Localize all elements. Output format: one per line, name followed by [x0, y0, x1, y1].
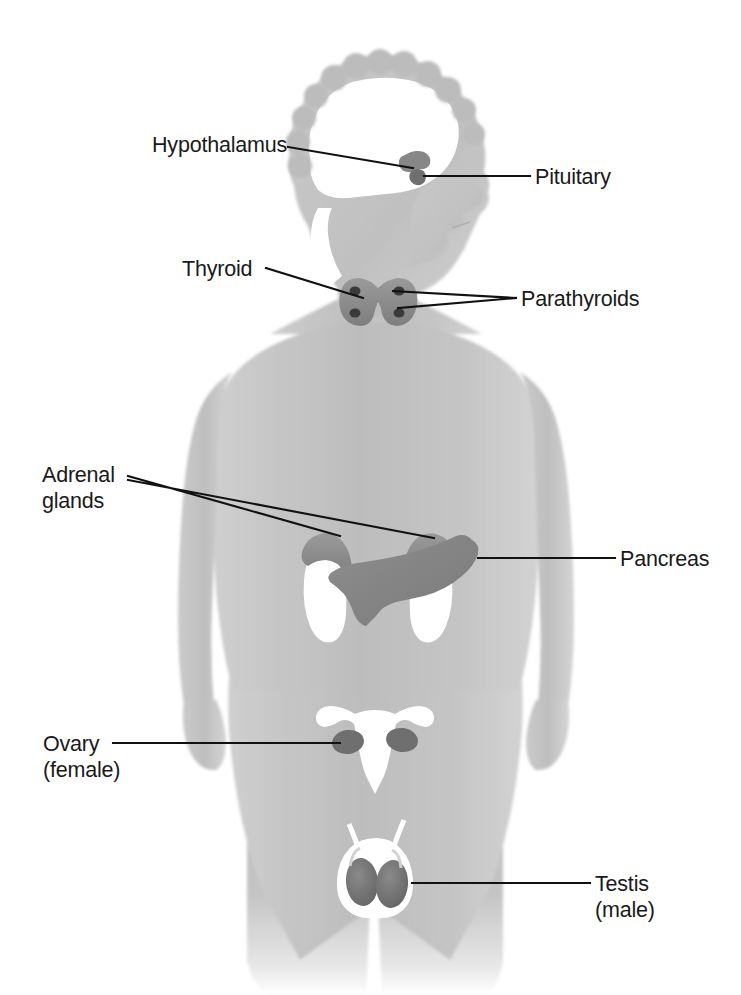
label-pituitary: Pituitary	[535, 165, 611, 189]
label-parathyroids: Parathyroids	[521, 287, 639, 311]
hand-left	[183, 700, 226, 770]
label-ovary-female: Ovary (female)	[43, 732, 120, 782]
label-testis-male: Testis (male)	[595, 872, 655, 922]
label-hypothalamus-line1: Hypothalamus	[152, 133, 287, 157]
label-adrenal-glands: Adrenal glands	[42, 463, 121, 513]
label-testis-line2: (male)	[595, 898, 655, 922]
hand-right	[526, 700, 569, 770]
label-ovary-line1: Ovary	[43, 732, 100, 756]
label-hypothalamus: Hypothalamus	[152, 133, 287, 157]
torso	[214, 316, 539, 690]
label-pancreas: Pancreas	[620, 547, 709, 571]
label-pituitary-line1: Pituitary	[535, 165, 611, 189]
diagram-canvas: Hypothalamus Pituitary Thyroid Parathyro…	[0, 0, 741, 995]
label-pancreas-line1: Pancreas	[620, 547, 709, 571]
label-testis-line1: Testis	[595, 872, 649, 896]
label-adrenal-glands-line1: Adrenal	[42, 463, 115, 487]
label-ovary-line2: (female)	[43, 758, 120, 782]
endocrine-system-diagram: Hypothalamus Pituitary Thyroid Parathyro…	[0, 0, 741, 995]
label-parathyroids-line1: Parathyroids	[521, 287, 639, 311]
label-thyroid: Thyroid	[182, 257, 252, 281]
label-adrenal-glands-line2: glands	[42, 489, 104, 513]
label-thyroid-line1: Thyroid	[182, 257, 252, 281]
